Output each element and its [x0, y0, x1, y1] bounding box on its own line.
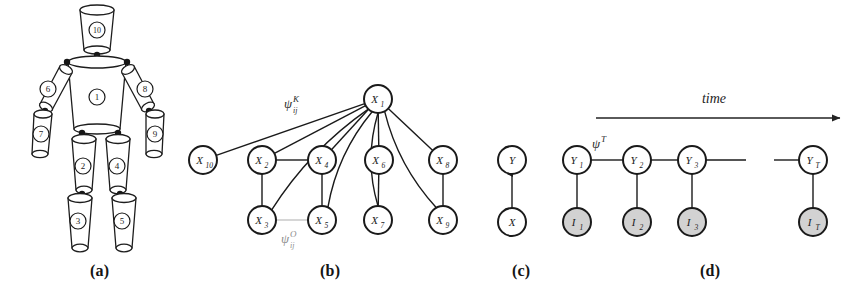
potential-superscript: O: [290, 229, 297, 239]
node-symbol: X: [314, 154, 323, 166]
body-part-number: 1: [95, 92, 100, 102]
potential-subscript: ij: [293, 106, 298, 115]
node-circle: [248, 206, 276, 234]
panel-caption-d: (d): [700, 262, 720, 280]
panel-b-node-group: X1X10X2X4X6X8X3X5X7X9: [189, 85, 457, 234]
panel-caption-b: (b): [320, 262, 340, 280]
node-circle: [308, 206, 336, 234]
graph-node-Y3: Y3: [678, 146, 706, 174]
body-part-number: 2: [81, 161, 86, 171]
annotation-psi-kinematic: ψKij: [284, 94, 300, 115]
graph-node-Y2: Y2: [623, 146, 651, 174]
node-circle-shaded: [799, 208, 827, 236]
graph-node-X7: X7: [364, 206, 392, 234]
node-subscript: 10: [206, 161, 214, 170]
graph-node-X10: X10: [189, 146, 217, 174]
node-circle: [308, 146, 336, 174]
figure-root: 12345678910 X1X10X2X4X6X8X3X5X7X9 ψKijψO…: [0, 0, 854, 291]
graph-node-X2: X2: [248, 146, 276, 174]
body-part-marker-torso: 1: [89, 89, 105, 105]
node-circle-shaded: [678, 208, 706, 236]
node-symbol: X: [371, 154, 380, 166]
node-subscript: 3: [264, 221, 269, 230]
node-subscript: 7: [381, 221, 385, 230]
node-symbol: X: [370, 214, 379, 226]
node-symbol: X: [314, 214, 323, 226]
graph-node-I3: I3: [678, 208, 706, 236]
graph-node-IT: IT: [799, 208, 827, 236]
node-circle: [248, 146, 276, 174]
node-subscript: 5: [325, 221, 329, 230]
node-circle: [623, 146, 651, 174]
node-subscript: 2: [265, 161, 269, 170]
graph-node-Y: Y: [498, 146, 526, 174]
graph-node-I1: I1: [563, 208, 591, 236]
potential-subscript: ij: [290, 241, 295, 250]
node-subscript: 8: [446, 161, 450, 170]
node-symbol: X: [370, 93, 379, 105]
potential-superscript: K: [292, 94, 300, 104]
body-part-marker-head: 10: [89, 22, 105, 38]
graph-node-Y1: Y1: [563, 146, 591, 174]
node-symbol: X: [254, 214, 263, 226]
node-symbol: X: [435, 154, 444, 166]
body-part-marker-right-upper-arm: 8: [137, 81, 153, 97]
panel-b-annotation-group: ψKijψOij: [281, 94, 300, 250]
panel-a-canvas: 12345678910 X1X10X2X4X6X8X3X5X7X9 ψKijψO…: [0, 0, 854, 291]
graph-edge-X1-X6: [378, 113, 379, 146]
body-part-number: 8: [143, 84, 148, 94]
node-symbol: X: [508, 216, 517, 228]
graph-node-X4: X4: [308, 146, 336, 174]
node-circle: [429, 206, 457, 234]
body-part-marker-left-upper-arm: 6: [40, 81, 56, 97]
node-circle: [364, 85, 392, 113]
node-circle: [365, 146, 393, 174]
graph-node-X: X: [498, 208, 526, 236]
node-subscript: 1: [381, 100, 385, 109]
potential-superscript: T: [601, 134, 607, 144]
body-part-number: 7: [39, 129, 44, 139]
panel-caption-c: (c): [512, 262, 530, 280]
body-part-number: 3: [76, 216, 81, 226]
body-part-number: 6: [46, 84, 51, 94]
annotation-psi-occlusion: ψOij: [281, 229, 297, 250]
node-subscript: 1: [580, 161, 584, 170]
node-circle: [429, 146, 457, 174]
node-symbol: X: [254, 154, 263, 166]
potential-symbol: ψ: [284, 96, 293, 111]
annotation-psi-temporal: ψT: [592, 134, 607, 151]
graph-node-X3: X3: [248, 206, 276, 234]
node-subscript: 2: [640, 161, 644, 170]
node-circle: [563, 146, 591, 174]
body-part-number: 5: [120, 216, 125, 226]
panel-caption-a: (a): [90, 262, 109, 280]
body-part-marker-right-shin: 5: [114, 213, 130, 229]
node-subscript: 3: [694, 161, 699, 170]
body-model: [32, 5, 164, 252]
node-symbol: X: [435, 214, 444, 226]
body-part-marker-left-forearm: 7: [33, 126, 49, 142]
graph-node-I2: I2: [623, 208, 651, 236]
node-subscript: 4: [325, 161, 329, 170]
node-subscript: 2: [640, 223, 644, 232]
node-subscript: 6: [382, 161, 386, 170]
time-axis-label: time: [702, 91, 726, 106]
body-part-number: 10: [93, 26, 101, 35]
graph-edge-X6-X7: [378, 174, 379, 206]
node-subscript: 9: [446, 221, 450, 230]
graph-node-X5: X5: [308, 206, 336, 234]
graph-node-X1: X1: [364, 85, 392, 113]
panel-d-annotation-group: ψT: [592, 134, 607, 151]
body-part-marker-left-thigh: 2: [75, 158, 91, 174]
potential-symbol: ψ: [281, 231, 290, 246]
potential-symbol: ψ: [592, 136, 601, 151]
body-part-number: 9: [153, 129, 158, 139]
node-circle-shaded: [563, 208, 591, 236]
node-circle: [799, 146, 827, 174]
body-part-marker-left-shin: 3: [70, 213, 86, 229]
node-subscript: 3: [694, 223, 699, 232]
graph-node-YT: YT: [799, 146, 827, 174]
body-part-number: 4: [115, 161, 120, 171]
node-circle-shaded: [623, 208, 651, 236]
body-part-marker-right-forearm: 9: [147, 126, 163, 142]
